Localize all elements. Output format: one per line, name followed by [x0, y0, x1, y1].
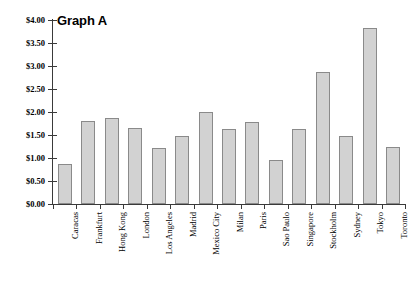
- bar: [339, 136, 353, 204]
- y-tick-label: $3.50: [0, 39, 45, 48]
- bar: [222, 129, 236, 204]
- y-tick-label: $0.50: [0, 177, 45, 186]
- x-tick-mark: [217, 204, 218, 209]
- x-tick-mark: [194, 204, 195, 209]
- x-tick-label-text: Frankfurt: [95, 212, 104, 244]
- y-tick-label: $3.00: [0, 62, 45, 71]
- y-tick-label: $2.00: [0, 108, 45, 117]
- x-tick-label: Toronto: [397, 212, 406, 239]
- y-tick-label: $1.00: [0, 154, 45, 163]
- x-tick-label: Mexico City: [209, 212, 218, 255]
- x-tick-label: Sydney: [350, 212, 359, 238]
- x-tick-mark: [358, 204, 359, 209]
- x-tick-label-text: London: [142, 212, 151, 238]
- x-tick-label: Milan: [233, 212, 242, 232]
- bar: [199, 112, 213, 204]
- x-tick-mark: [264, 204, 265, 209]
- y-tick-label: $0.00: [0, 200, 45, 209]
- x-tick-mark: [382, 204, 383, 209]
- y-tick-label: $1.50: [0, 131, 45, 140]
- x-tick-label-text: Sydney: [353, 212, 362, 238]
- x-tick-mark: [311, 204, 312, 209]
- x-tick-label-text: Milan: [236, 212, 245, 232]
- x-tick-mark: [288, 204, 289, 209]
- x-tick-mark: [53, 204, 54, 209]
- x-tick-label: Caracas: [68, 212, 77, 239]
- x-axis-line: [52, 204, 405, 205]
- x-tick-label-text: Singapore: [306, 212, 315, 246]
- bar: [152, 148, 166, 204]
- x-tick-label-text: Tokyo: [376, 212, 385, 234]
- plot-area: [53, 20, 405, 204]
- bar: [58, 164, 72, 204]
- x-tick-label-text: Paris: [259, 212, 268, 229]
- x-tick-label-text: Hong Kong: [118, 212, 127, 252]
- x-tick-label: Sao Paulo: [279, 212, 288, 246]
- x-tick-mark: [76, 204, 77, 209]
- x-tick-mark: [147, 204, 148, 209]
- x-tick-label: Tokyo: [373, 212, 382, 234]
- bar: [269, 160, 283, 204]
- x-tick-label-text: Los Angeles: [165, 212, 174, 254]
- x-tick-label: Madrid: [186, 212, 195, 237]
- x-tick-mark: [405, 204, 406, 209]
- x-tick-label: London: [139, 212, 148, 238]
- bar: [245, 122, 259, 204]
- x-tick-label-text: Stockholm: [329, 212, 338, 249]
- bar: [128, 128, 142, 204]
- bar: [363, 28, 377, 204]
- x-tick-mark: [335, 204, 336, 209]
- y-tick-label: $4.00: [0, 16, 45, 25]
- bar: [316, 72, 330, 204]
- x-tick-mark: [241, 204, 242, 209]
- x-tick-label: Stockholm: [326, 212, 335, 249]
- bar: [292, 129, 306, 204]
- x-tick-label: Hong Kong: [115, 212, 124, 252]
- bar-chart: Graph A $0.00$0.50$1.00$1.50$2.00$2.50$3…: [0, 0, 415, 282]
- x-tick-label-text: Mexico City: [212, 212, 221, 255]
- bar: [81, 121, 95, 204]
- y-tick-label: $2.50: [0, 85, 45, 94]
- bar: [105, 118, 119, 204]
- x-tick-label-text: Madrid: [189, 212, 198, 237]
- x-tick-label-text: Caracas: [71, 212, 80, 239]
- bar: [386, 147, 400, 204]
- x-tick-mark: [100, 204, 101, 209]
- x-tick-mark: [170, 204, 171, 209]
- x-tick-label-text: Toronto: [400, 212, 409, 239]
- bar: [175, 136, 189, 204]
- x-tick-mark: [123, 204, 124, 209]
- x-tick-label: Paris: [256, 212, 265, 229]
- x-tick-label: Los Angeles: [162, 212, 171, 254]
- x-tick-label-text: Sao Paulo: [282, 212, 291, 246]
- x-tick-label: Frankfurt: [92, 212, 101, 244]
- x-tick-label: Singapore: [303, 212, 312, 246]
